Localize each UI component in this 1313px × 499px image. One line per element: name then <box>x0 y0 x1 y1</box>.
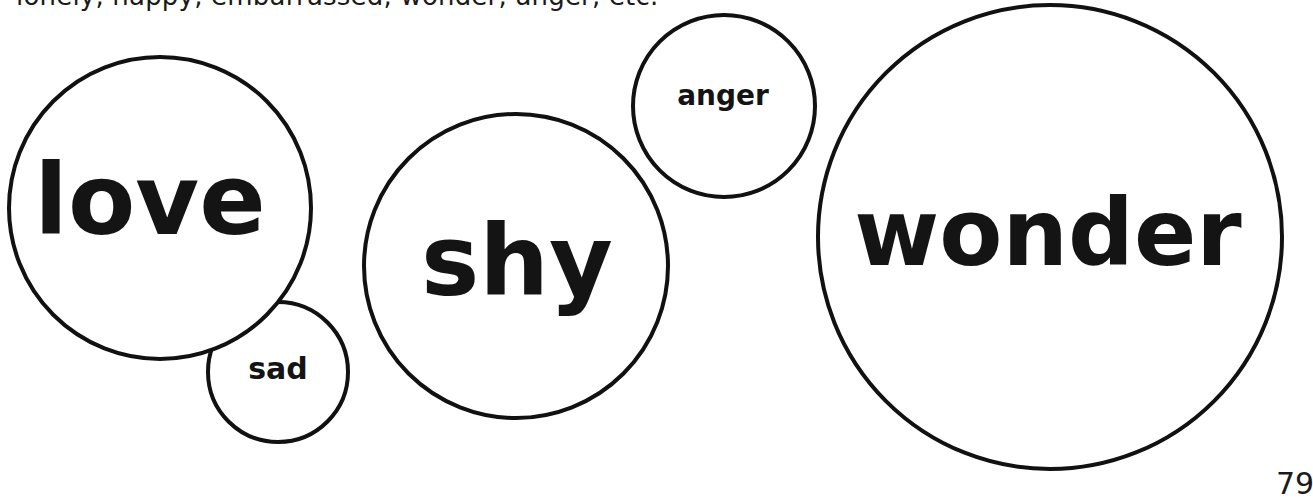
bubble-shy-label: shy <box>421 204 613 318</box>
bubble-love-label: love <box>34 143 265 257</box>
bubble-sad-label: sad <box>248 351 308 386</box>
bubble-shy: shy <box>364 114 668 418</box>
bubble-wonder-label: wonder <box>854 180 1242 287</box>
bubble-wonder: wonder <box>818 5 1282 469</box>
page-number: 79 <box>1276 468 1313 499</box>
bubble-anger-label: anger <box>677 79 769 112</box>
bubble-anger: anger <box>633 15 815 197</box>
bubble-love: love <box>9 57 311 359</box>
emotion-bubbles: sad love shy anger wonder <box>0 0 1313 499</box>
